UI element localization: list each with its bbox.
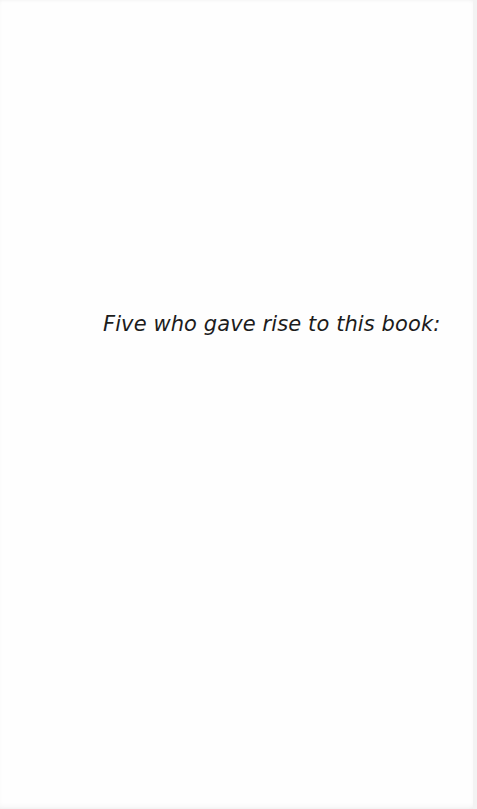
page-edge-shadow bbox=[473, 0, 477, 809]
dedication-heading: Five who gave rise to this book: bbox=[103, 309, 440, 339]
book-page: Five who gave rise to this book: bbox=[0, 0, 477, 809]
